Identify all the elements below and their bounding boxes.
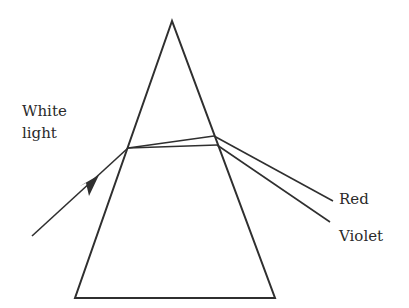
label-violet: Violet [339,227,383,246]
red-ray-out [214,136,333,201]
label-white: White [22,102,67,121]
arrowhead-icon [80,175,99,196]
incident-ray [32,148,128,236]
label-light: light [22,124,57,143]
label-red: Red [339,190,369,209]
prism-diagram [0,0,409,308]
violet-ray-out [217,145,330,222]
prism [75,21,275,298]
